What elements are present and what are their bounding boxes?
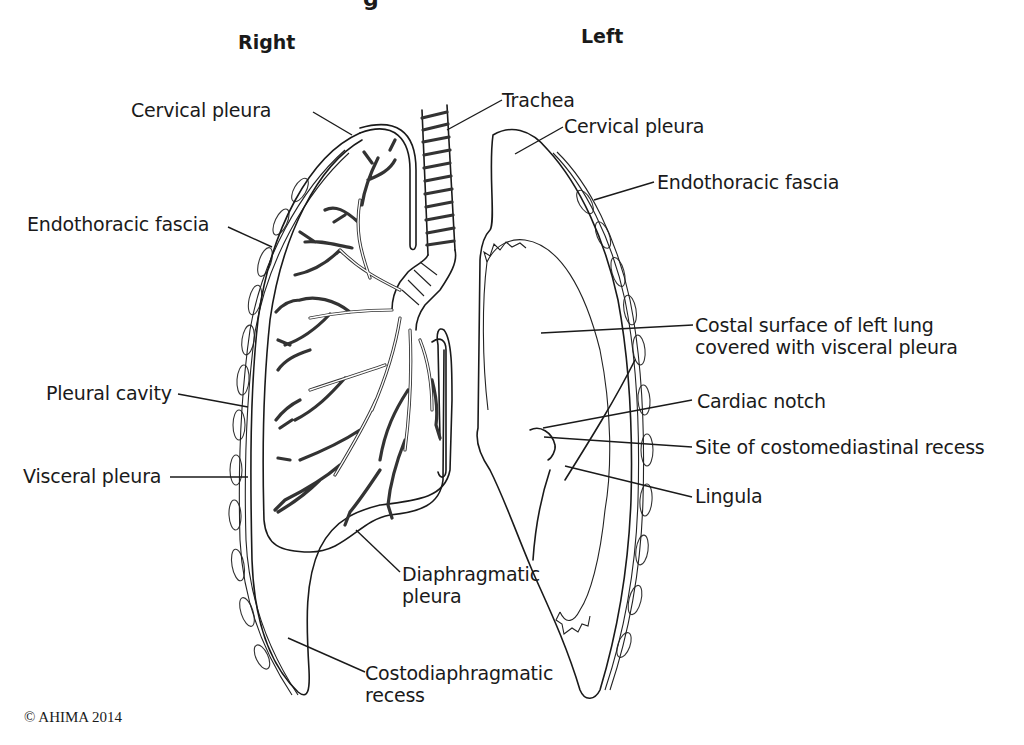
label-costal-surface: Costal surface of left lung covered with… [695, 314, 958, 358]
trachea-rings [422, 105, 455, 255]
right-side-title: Right [238, 31, 295, 53]
label-diaphragmatic-pleura-line1: Diaphragmatic [402, 563, 540, 585]
label-cardiac-notch: Cardiac notch [697, 390, 826, 412]
lung-pleura-diagram: g [0, 0, 1024, 745]
label-pleural-cavity: Pleural cavity [46, 382, 172, 404]
label-costodiaphragmatic-line2: recess [365, 684, 553, 706]
label-costomediastinal-recess: Site of costomediastinal recess [695, 436, 985, 458]
label-endothoracic-fascia-left: Endothoracic fascia [657, 171, 839, 193]
left-side-title: Left [581, 25, 623, 47]
label-costodiaphragmatic-line1: Costodiaphragmatic [365, 662, 553, 684]
label-cervical-pleura-left: Cervical pleura [564, 115, 704, 137]
label-diaphragmatic-pleura-line2: pleura [402, 585, 540, 607]
label-trachea: Trachea [502, 89, 575, 111]
label-costal-surface-line1: Costal surface of left lung [695, 314, 958, 336]
label-endothoracic-fascia-right: Endothoracic fascia [27, 213, 209, 235]
label-costal-surface-line2: covered with visceral pleura [695, 336, 958, 358]
label-visceral-pleura: Visceral pleura [23, 465, 161, 487]
label-lingula: Lingula [695, 485, 763, 507]
label-cervical-pleura-right: Cervical pleura [131, 99, 271, 121]
copyright-notice: © AHIMA 2014 [24, 709, 122, 726]
label-costodiaphragmatic-recess: Costodiaphragmatic recess [365, 662, 553, 706]
label-diaphragmatic-pleura: Diaphragmatic pleura [402, 563, 540, 607]
